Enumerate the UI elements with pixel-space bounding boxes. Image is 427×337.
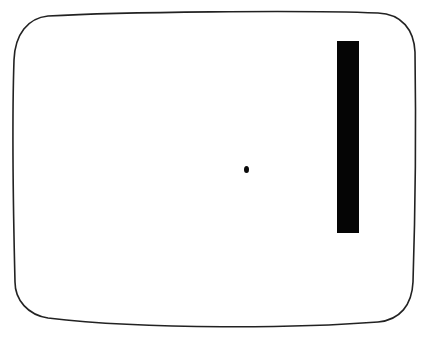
crt-screen-outline (0, 0, 427, 337)
right-paddle[interactable] (337, 41, 359, 233)
ball (244, 166, 249, 173)
game-screen: Pong (0, 0, 427, 337)
